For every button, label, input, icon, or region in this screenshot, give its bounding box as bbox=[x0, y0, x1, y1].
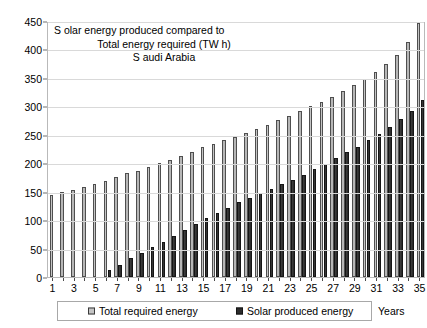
bar-total-required-energy bbox=[50, 195, 54, 277]
bar-solar-produced-energy bbox=[313, 169, 317, 277]
x-axis-tick-label: 7 bbox=[114, 283, 120, 294]
x-axis-label: Years bbox=[378, 305, 404, 317]
bar-group bbox=[60, 23, 68, 277]
y-axis-tick-label: 400 bbox=[24, 45, 42, 55]
bar-solar-produced-energy bbox=[356, 147, 360, 277]
bar-solar-produced-energy bbox=[205, 218, 209, 277]
bar-group bbox=[374, 23, 382, 277]
bar-group bbox=[125, 23, 133, 277]
gridline bbox=[48, 221, 424, 222]
x-axis-tick-mark bbox=[311, 278, 312, 281]
x-axis-tick-mark bbox=[106, 278, 107, 281]
bar-group bbox=[158, 23, 166, 277]
bar-total-required-energy bbox=[201, 147, 205, 277]
x-axis: 1357911131517192123252729313335 bbox=[47, 278, 425, 302]
bar-total-required-energy bbox=[136, 171, 140, 277]
x-axis-tick-mark bbox=[95, 278, 96, 281]
x-axis-tick-mark bbox=[117, 278, 118, 281]
bar-group bbox=[93, 23, 101, 277]
y-axis-tick-label: 150 bbox=[24, 188, 42, 198]
x-axis-tick-mark bbox=[290, 278, 291, 281]
x-axis-tick-label: 3 bbox=[71, 283, 77, 294]
bar-group bbox=[233, 23, 241, 277]
bar-group bbox=[309, 23, 317, 277]
bar-total-required-energy bbox=[406, 42, 410, 277]
x-axis-tick-mark bbox=[192, 278, 193, 281]
bar-group bbox=[276, 23, 284, 277]
bar-solar-produced-energy bbox=[118, 265, 122, 278]
bar-solar-produced-energy bbox=[237, 202, 241, 277]
x-axis-tick-mark bbox=[387, 278, 388, 281]
legend-item-total-required-energy: Total required energy bbox=[88, 306, 198, 317]
bar-group bbox=[104, 23, 112, 277]
x-axis-tick-mark bbox=[138, 278, 139, 281]
bar-solar-produced-energy bbox=[378, 134, 382, 277]
legend-item-solar-produced-energy: Solar produced energy bbox=[236, 306, 353, 317]
bar-group bbox=[406, 23, 414, 277]
bar-total-required-energy bbox=[352, 85, 356, 277]
x-axis-tick-mark bbox=[300, 278, 301, 281]
gridline bbox=[48, 136, 424, 137]
bar-solar-produced-energy bbox=[334, 158, 338, 277]
bar-total-required-energy bbox=[395, 55, 399, 277]
bar-total-required-energy bbox=[233, 137, 237, 278]
x-axis-tick-mark bbox=[74, 278, 75, 281]
gridline bbox=[48, 107, 424, 108]
bar-solar-produced-energy bbox=[226, 208, 230, 277]
bar-total-required-energy bbox=[125, 173, 129, 277]
bar-total-required-energy bbox=[374, 72, 378, 277]
bar-group bbox=[222, 23, 230, 277]
bar-group bbox=[201, 23, 209, 277]
bar-group bbox=[298, 23, 306, 277]
bar-solar-produced-energy bbox=[302, 175, 306, 277]
y-axis-tick-label: 350 bbox=[24, 74, 42, 84]
bar-total-required-energy bbox=[168, 160, 172, 277]
x-axis-tick-label: 15 bbox=[198, 283, 210, 294]
bar-total-required-energy bbox=[179, 156, 183, 277]
x-axis-tick-label: 1 bbox=[49, 283, 55, 294]
bar-group bbox=[287, 23, 295, 277]
bar-total-required-energy bbox=[276, 120, 280, 277]
bar-solar-produced-energy bbox=[367, 140, 371, 277]
bar-total-required-energy bbox=[104, 181, 108, 277]
bar-solar-produced-energy bbox=[248, 198, 252, 277]
bar-solar-produced-energy bbox=[183, 230, 187, 277]
bar-solar-produced-energy bbox=[291, 180, 295, 277]
bar-total-required-energy bbox=[60, 192, 64, 277]
bar-group bbox=[363, 23, 371, 277]
bar-group bbox=[255, 23, 263, 277]
legend-swatch-icon-solar bbox=[236, 308, 243, 315]
y-axis-tick-label: 250 bbox=[24, 131, 42, 141]
plot-frame bbox=[47, 22, 425, 278]
gridline bbox=[48, 22, 424, 23]
bar-solar-produced-energy bbox=[129, 258, 133, 277]
chart-legend: Total required energy Solar produced ene… bbox=[57, 301, 372, 321]
bar-total-required-energy bbox=[82, 187, 86, 277]
bar-solar-produced-energy bbox=[162, 242, 166, 277]
x-axis-tick-mark bbox=[63, 278, 64, 281]
x-axis-tick-label: 13 bbox=[176, 283, 188, 294]
x-axis-tick-mark bbox=[322, 278, 323, 281]
x-axis-tick-label: 35 bbox=[414, 283, 426, 294]
bar-solar-produced-energy bbox=[280, 184, 284, 277]
legend-swatch-icon-total bbox=[88, 308, 95, 315]
bar-group bbox=[71, 23, 79, 277]
x-axis-tick-mark bbox=[182, 278, 183, 281]
bar-group bbox=[136, 23, 144, 277]
x-axis-tick-mark bbox=[225, 278, 226, 281]
x-axis-tick-label: 29 bbox=[349, 283, 361, 294]
bar-group bbox=[417, 23, 425, 277]
bar-solar-produced-energy bbox=[345, 152, 349, 277]
bar-group bbox=[212, 23, 220, 277]
x-axis-tick-label: 33 bbox=[392, 283, 404, 294]
y-axis: 050100150200250300350400450 bbox=[0, 22, 47, 278]
bar-group bbox=[395, 23, 403, 277]
x-axis-tick-mark bbox=[84, 278, 85, 281]
gridline bbox=[48, 164, 424, 165]
x-axis-tick-mark bbox=[408, 278, 409, 281]
x-axis-tick-mark bbox=[246, 278, 247, 281]
legend-label-total: Total required energy bbox=[99, 306, 198, 317]
x-axis-tick-mark bbox=[203, 278, 204, 281]
gridline bbox=[48, 193, 424, 194]
bar-solar-produced-energy bbox=[216, 213, 220, 277]
